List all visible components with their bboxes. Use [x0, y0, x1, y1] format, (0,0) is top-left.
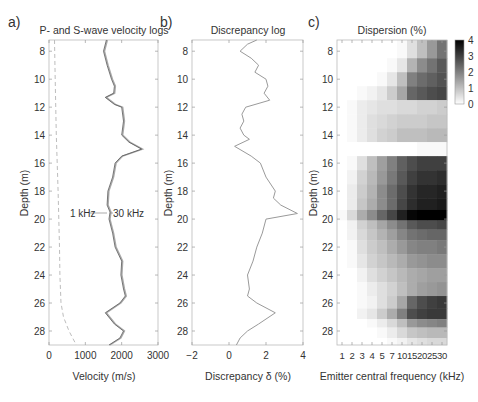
heatmap-cell	[437, 170, 447, 184]
heatmap-cell	[397, 210, 407, 221]
heatmap-cell	[417, 268, 427, 282]
heatmap-cell	[387, 282, 397, 296]
heatmap-cell	[427, 170, 437, 184]
heatmap-cell	[407, 296, 417, 309]
depth-tick-label: 26	[322, 298, 334, 309]
heatmap-cell	[407, 282, 417, 296]
depth-tick-label: 24	[177, 270, 189, 281]
heatmap-cell	[417, 210, 427, 221]
heatmap-cell	[437, 319, 447, 328]
heatmap-cell	[347, 156, 357, 170]
heatmap-cell	[437, 230, 447, 241]
heatmap-cell	[407, 86, 417, 100]
heatmap-cell	[367, 309, 377, 320]
panel-c-xlabel: Emitter central frequency (kHz)	[320, 370, 465, 382]
heatmap-cell	[387, 328, 397, 339]
heatmap-cell	[407, 220, 417, 229]
heatmap-cell	[437, 86, 447, 100]
panel-a-title: P- and S-wave velocity logs	[40, 24, 169, 36]
heatmap-cell	[417, 198, 427, 210]
heatmap-cell	[357, 296, 367, 309]
heatmap-cell	[417, 100, 427, 114]
colorbar-tick-label: 1	[468, 83, 474, 94]
heatmap-cell	[347, 309, 357, 320]
depth-tick-label: 14	[34, 130, 46, 141]
depth-tick-label: 18	[34, 186, 46, 197]
heatmap-cell	[357, 58, 367, 72]
c-xtick-label: 25	[427, 350, 437, 361]
heatmap-cell	[377, 184, 387, 198]
depth-tick-label: 16	[34, 158, 46, 169]
heatmap-cell	[387, 254, 397, 268]
heatmap-cell	[387, 184, 397, 198]
depth-tick-label: 14	[322, 130, 334, 141]
heatmap-cell	[417, 220, 427, 229]
heatmap-cell	[427, 198, 437, 210]
c-xtick-label: 3	[360, 350, 365, 361]
c-xtick-label: 15	[407, 350, 417, 361]
heatmap-cell	[427, 100, 437, 114]
heatmap-cell	[427, 319, 437, 328]
depth-tick-label: 18	[322, 186, 334, 197]
heatmap-cell	[427, 184, 437, 198]
a-xtick-label: 3000	[147, 350, 170, 361]
depth-tick-label: 12	[322, 102, 334, 113]
heatmap-cell	[387, 170, 397, 184]
heatmap-cell	[397, 128, 407, 142]
heatmap-cell	[437, 220, 447, 229]
heatmap-cell	[417, 156, 427, 170]
heatmap-cell	[387, 156, 397, 170]
c-xtick-label: 4	[370, 350, 375, 361]
annotation-30khz: 30 kHz	[113, 208, 144, 219]
heatmap-cell	[337, 86, 347, 100]
panel-a-letter: a)	[8, 14, 20, 30]
heatmap-cell	[397, 184, 407, 198]
heatmap-cell	[367, 254, 377, 268]
panel-a-frame	[49, 40, 158, 345]
heatmap-cell	[337, 319, 347, 328]
heatmap-cell	[407, 128, 417, 142]
heatmap-cell	[427, 282, 437, 296]
heatmap-cell	[337, 58, 347, 72]
heatmap-cell	[377, 309, 387, 320]
heatmap-cell	[397, 100, 407, 114]
discrepancy-curve	[235, 40, 298, 345]
heatmap-cell	[347, 328, 357, 339]
heatmap-cell	[387, 240, 397, 254]
heatmap-cell	[417, 296, 427, 309]
depth-tick-label: 22	[34, 242, 46, 253]
depth-tick-label: 14	[177, 130, 189, 141]
heatmap-cell	[417, 142, 427, 156]
heatmap-cell	[367, 319, 377, 328]
heatmap-cell	[367, 100, 377, 114]
heatmap-cell	[337, 220, 347, 229]
heatmap-cell	[397, 156, 407, 170]
c-xtick-label: 10	[397, 350, 407, 361]
heatmap-cell	[347, 170, 357, 184]
panel-c-title: Dispersion (%)	[358, 24, 427, 36]
heatmap-cell	[437, 198, 447, 210]
heatmap-cell	[357, 170, 367, 184]
a-xtick-label: 0	[46, 350, 52, 361]
heatmap-cell	[417, 58, 427, 72]
heatmap-cell	[397, 328, 407, 339]
heatmap-cell	[437, 296, 447, 309]
heatmap-cell	[357, 142, 367, 156]
depth-tick-label: 8	[39, 46, 45, 57]
heatmap-cell	[387, 220, 397, 229]
heatmap-cell	[377, 156, 387, 170]
heatmap-cell	[377, 100, 387, 114]
depth-tick-label: 28	[34, 326, 46, 337]
heatmap-cell	[407, 328, 417, 339]
heatmap-cell	[437, 114, 447, 128]
heatmap-cell	[387, 309, 397, 320]
heatmap-cell	[377, 254, 387, 268]
heatmap-cell	[407, 254, 417, 268]
colorbar-tick-label: 0	[468, 99, 474, 110]
heatmap-cell	[347, 268, 357, 282]
heatmap-cell	[347, 296, 357, 309]
heatmap-cell	[397, 309, 407, 320]
depth-tick-label: 20	[34, 214, 46, 225]
heatmap-cell	[417, 282, 427, 296]
heatmap-cell	[427, 114, 437, 128]
